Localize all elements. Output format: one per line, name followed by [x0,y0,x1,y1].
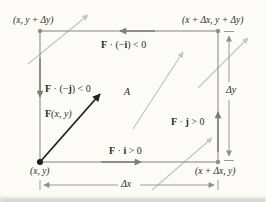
page-edge-shadow [0,196,266,202]
corner-dot-bottom-right [216,160,220,164]
corner-label-top-left: (x, y + Δy) [13,15,53,25]
dimension-label-dx: Δx [119,178,133,189]
flux-bottom-end: > 0 [126,145,142,156]
vector-F-arrow [40,94,100,162]
corner-dot-top-right [216,29,220,33]
divergence-flux-diagram: (x, y + Δy) (x + Δx, y + Δy) (x, y) (x +… [0,0,266,202]
flux-right-end: > 0 [189,116,205,127]
dimension-label-dy: Δy [224,84,238,95]
flux-top-end: ) < 0 [127,39,146,50]
flux-label-right: F · j > 0 [171,116,204,127]
corner-label-bottom-left: (x, y) [30,166,50,176]
corner-dot-top-left [38,29,42,33]
flux-label-left: F · (−j) < 0 [45,83,91,94]
corner-label-top-right: (x + Δx, y + Δy) [182,15,243,25]
field-arrow-right [198,38,248,88]
field-arrow-bottom-right [152,138,212,190]
flux-label-bottom: F · i > 0 [109,145,142,156]
corner-label-bottom-right: (x + Δx, y) [195,166,235,176]
flux-left-mid: · (− [51,83,68,94]
area-label: A [124,86,130,97]
dimension-dy [224,32,234,161]
flux-top-mid: · (− [107,39,124,50]
vector-F-label: F(x, y) [45,108,72,119]
flux-left-end: ) < 0 [72,83,91,94]
vector-F-args: (x, y) [51,108,72,119]
flux-label-top: F · (−i) < 0 [101,39,146,50]
